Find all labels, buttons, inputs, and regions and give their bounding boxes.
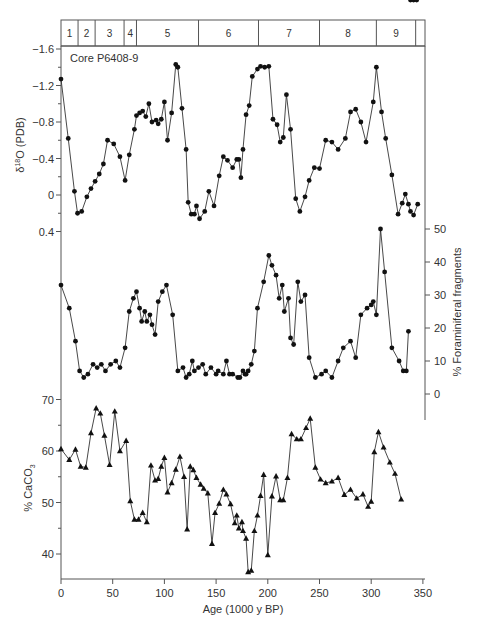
data-point [313,375,318,380]
data-point [389,345,394,350]
data-point [400,201,405,206]
series-line [61,229,408,378]
data-point [319,372,324,377]
data-point [212,204,217,209]
data-point [307,178,312,183]
data-point [273,473,279,478]
data-point [200,362,205,367]
data-point [209,365,214,370]
data-point [77,369,82,374]
data-point [303,194,308,199]
data-point [161,454,167,459]
data-point [274,273,279,278]
stage-label: 4 [127,28,133,39]
data-point [113,359,118,364]
caco3-axis-ticks: 70605040 [42,394,61,561]
data-point [192,369,197,374]
tick-label: 0.4 [39,226,54,238]
data-point [249,362,254,367]
data-point [375,429,381,434]
data-point [93,179,98,184]
data-point [269,493,275,498]
data-point [295,279,300,284]
data-point [246,369,251,374]
data-point [78,463,84,468]
data-point [392,470,398,475]
data-point [280,283,285,288]
data-point [239,175,244,180]
stage-label: 3 [107,28,113,39]
data-point [298,436,304,441]
data-point [275,122,280,127]
tick-label: 0 [58,587,64,599]
data-point [140,510,146,515]
data-point [93,405,99,410]
data-point [293,196,298,201]
tick-label: 70 [42,394,54,406]
data-point [237,375,242,380]
data-point [365,503,371,508]
data-point [184,147,189,152]
data-point [173,466,179,471]
data-point [336,359,341,364]
tick-label: −1.2 [32,80,54,92]
data-point [212,510,218,515]
data-point [303,425,309,430]
data-point [192,212,197,217]
data-point [193,475,199,480]
tick-label: 60 [42,445,54,457]
data-point [123,345,128,350]
data-point [323,369,328,374]
tick-label: 10 [434,355,446,367]
data-point [202,209,207,214]
data-point [169,110,174,115]
tick-label: 50 [434,223,446,235]
data-point [142,309,147,314]
data-point [158,463,164,468]
data-point [234,512,240,517]
data-point [143,114,148,119]
data-point [241,147,246,152]
data-point [236,525,242,530]
data-point [403,192,408,197]
tick-label: −0.4 [32,153,54,165]
data-point [177,453,183,458]
data-point [414,0,419,2]
data-point [254,512,260,517]
data-point [297,209,302,214]
data-point [353,355,358,360]
data-point [162,100,167,105]
data-point [341,345,346,350]
data-point [408,209,413,214]
data-point [165,489,171,494]
data-point [368,498,374,503]
data-point [348,486,354,491]
data-point [169,480,175,485]
tick-label: 50 [107,587,119,599]
data-point [250,74,255,79]
stage-label: 7 [286,28,292,39]
tick-label: 0 [434,388,440,400]
data-point [159,117,164,122]
data-point [150,322,155,327]
tick-label: 300 [362,587,380,599]
data-point [365,306,370,311]
data-point [187,372,192,377]
foram-axis-ticks: 50403020100 [425,223,446,400]
data-point [150,120,155,125]
data-point [381,444,387,449]
data-point [131,296,136,301]
data-point [156,121,161,126]
data-point [134,289,139,294]
data-point [397,359,402,364]
data-point [144,519,150,524]
data-point [216,500,222,505]
data-point [270,263,275,268]
data-point [289,431,295,436]
data-point [196,365,201,370]
data-point [239,519,245,524]
data-point [146,101,151,106]
data-point [353,107,358,112]
data-point [144,319,149,324]
data-point [95,365,100,370]
